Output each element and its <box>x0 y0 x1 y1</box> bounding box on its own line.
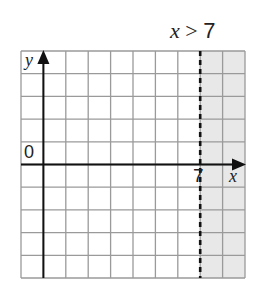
x-axis-label: x <box>229 166 237 187</box>
inequality-variable: x <box>170 18 180 43</box>
inequality-label: x > 7 <box>170 18 215 44</box>
inequality-operator: > <box>185 18 197 43</box>
origin-label: 0 <box>24 142 34 163</box>
coordinate-grid <box>0 0 259 292</box>
y-axis-arrow-icon <box>37 50 49 64</box>
inequality-value: 7 <box>203 18 215 43</box>
boundary-tick-label: 7 <box>193 165 204 187</box>
y-axis-label: y <box>25 50 33 71</box>
